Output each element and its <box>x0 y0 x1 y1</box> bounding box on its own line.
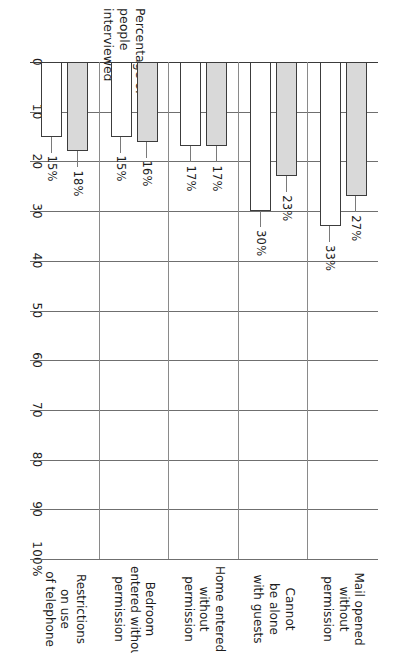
value-label-series-2-3: 23% <box>280 195 294 221</box>
value-label-series-2-2: 17% <box>210 165 224 191</box>
value-label-series-2-4: 27% <box>349 215 363 241</box>
category-label-4: Mail openedwithoutpermission <box>320 566 367 652</box>
bar-series-1-1 <box>111 62 132 137</box>
category-label-line: Restrictions <box>73 566 89 652</box>
bar-series-2-3 <box>276 62 297 176</box>
value-label-series-1-2: 17% <box>184 165 198 191</box>
category-label-line: of telephone <box>41 566 57 652</box>
value-leader-tick <box>120 137 121 153</box>
category-label-line: permission <box>320 566 336 652</box>
value-label-series-2-0: 18% <box>71 170 85 196</box>
bar-series-1-4 <box>320 62 341 226</box>
category-label-line: permission <box>181 566 197 652</box>
category-label-line: without <box>196 566 212 652</box>
bar-series-2-2 <box>207 62 228 146</box>
category-label-0: Restrictionson useof telephone <box>41 566 88 652</box>
category-label-line: be alone <box>266 566 282 652</box>
category-separator <box>307 62 308 559</box>
category-label-line: Mail opened <box>351 566 367 652</box>
rotated-figure-wrapper: Percentage of people interviewed 0102030… <box>0 0 400 653</box>
bar-series-1-3 <box>250 62 271 211</box>
gridline-100 <box>30 559 378 560</box>
category-separator <box>168 62 169 559</box>
category-label-line: permission <box>111 566 127 652</box>
value-leader-tick <box>77 151 78 167</box>
category-label-line: entered without <box>127 566 143 652</box>
category-label-line: on use <box>57 566 73 652</box>
category-label-2: Home enteredwithoutpermission <box>181 566 228 652</box>
value-label-series-2-1: 16% <box>140 161 154 187</box>
plot-area: 15%18%15%16%17%17%30%23%33%27% <box>30 62 378 559</box>
category-separator <box>238 62 239 559</box>
value-label-series-1-0: 15% <box>45 156 59 182</box>
value-leader-tick <box>216 146 217 162</box>
category-separator <box>99 62 100 559</box>
category-label-line: Bedroom <box>142 566 158 652</box>
category-label-line: Home entered <box>212 566 228 652</box>
gridline-70 <box>30 410 378 411</box>
bar-series-2-0 <box>67 62 88 151</box>
category-label-3: Cannotbe alonewith guests <box>250 566 297 652</box>
bar-series-2-4 <box>346 62 367 196</box>
gridline-60 <box>30 360 378 361</box>
value-label-series-1-3: 30% <box>254 230 268 256</box>
value-leader-tick <box>286 176 287 192</box>
value-leader-tick <box>190 146 191 162</box>
category-label-line: with guests <box>250 566 266 652</box>
bar-chart-figure: Percentage of people interviewed 0102030… <box>0 0 400 653</box>
value-leader-tick <box>329 226 330 242</box>
gridline-80 <box>30 460 378 461</box>
gridline-50 <box>30 311 378 312</box>
category-label-line: Cannot <box>281 566 297 652</box>
bar-series-1-2 <box>181 62 202 146</box>
value-leader-tick <box>355 196 356 212</box>
value-label-series-1-4: 33% <box>323 245 337 271</box>
bar-series-2-1 <box>137 62 158 142</box>
bar-series-1-0 <box>41 62 62 137</box>
value-leader-tick <box>51 137 52 153</box>
category-label-line: without <box>335 566 351 652</box>
value-leader-tick <box>146 142 147 158</box>
category-label-1: Bedroomentered withoutpermission <box>111 566 158 652</box>
value-leader-tick <box>260 211 261 227</box>
value-label-series-1-1: 15% <box>114 156 128 182</box>
gridline-90 <box>30 509 378 510</box>
